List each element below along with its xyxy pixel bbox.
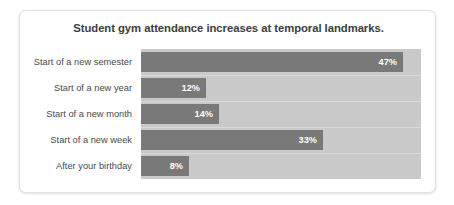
bar-new-week[interactable]: 33% bbox=[141, 130, 323, 150]
bar-value-label: 14% bbox=[195, 104, 213, 124]
chart-card: Student gym attendance increases at temp… bbox=[19, 10, 436, 193]
bar-new-month[interactable]: 14% bbox=[141, 104, 219, 124]
chart-title: Student gym attendance increases at temp… bbox=[20, 22, 436, 34]
bar-row: 8% bbox=[141, 153, 421, 179]
bar-value-label: 8% bbox=[170, 156, 183, 176]
category-label: Start of a new year bbox=[20, 75, 132, 101]
axis-row: Start of a new semester bbox=[20, 49, 141, 75]
bar-row: 14% bbox=[141, 101, 421, 127]
chart-body: Start of a new semester Start of a new y… bbox=[20, 49, 436, 189]
screenshot-root: Student gym attendance increases at temp… bbox=[0, 0, 454, 205]
bar-birthday[interactable]: 8% bbox=[141, 156, 189, 176]
axis-row: Start of a new month bbox=[20, 101, 141, 127]
bar-row: 33% bbox=[141, 127, 421, 153]
plot-area: 47% 12% 14% 33% bbox=[141, 49, 421, 179]
bar-semester[interactable]: 47% bbox=[141, 52, 403, 72]
category-label: Start of a new week bbox=[20, 127, 132, 153]
category-label: Start of a new month bbox=[20, 101, 132, 127]
bar-value-label: 47% bbox=[379, 52, 397, 72]
bar-row: 47% bbox=[141, 49, 421, 75]
bar-row: 12% bbox=[141, 75, 421, 101]
axis-row: After your birthday bbox=[20, 153, 141, 179]
bar-value-label: 33% bbox=[299, 130, 317, 150]
axis-row: Start of a new year bbox=[20, 75, 141, 101]
axis-row: Start of a new week bbox=[20, 127, 141, 153]
bar-new-year[interactable]: 12% bbox=[141, 78, 206, 98]
bar-value-label: 12% bbox=[182, 78, 200, 98]
category-axis: Start of a new semester Start of a new y… bbox=[20, 49, 141, 179]
category-label: Start of a new semester bbox=[20, 49, 132, 75]
category-label: After your birthday bbox=[20, 153, 132, 179]
